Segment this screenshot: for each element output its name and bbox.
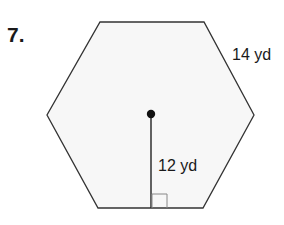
apothem-length-label: 12 yd <box>158 157 197 174</box>
hexagon-diagram: 7. 14 yd 12 yd <box>0 0 284 225</box>
problem-number: 7. <box>7 23 25 46</box>
side-length-label: 14 yd <box>232 46 271 63</box>
center-point <box>147 110 155 118</box>
